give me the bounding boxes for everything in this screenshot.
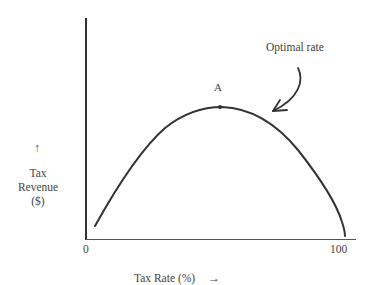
arrow-head (273, 100, 287, 111)
x-axis-arrow-icon: → (208, 271, 220, 285)
y-axis-title-line: Tax (10, 166, 66, 180)
optimal-rate-label: Optimal rate (266, 41, 324, 53)
x-tick-100: 100 (330, 243, 347, 255)
y-axis-title-line: Revenue (10, 180, 66, 194)
y-axis-title: Tax Revenue ($) (10, 166, 66, 208)
point-a-label: A (214, 81, 222, 93)
y-axis-title-line: ($) (10, 194, 66, 208)
laffer-curve (95, 107, 345, 236)
x-tick-0: 0 (83, 243, 89, 255)
point-a-marker (218, 105, 222, 109)
y-axis-arrow-icon: ↑ (34, 141, 40, 156)
x-axis-title: Tax Rate (%) (134, 272, 195, 284)
